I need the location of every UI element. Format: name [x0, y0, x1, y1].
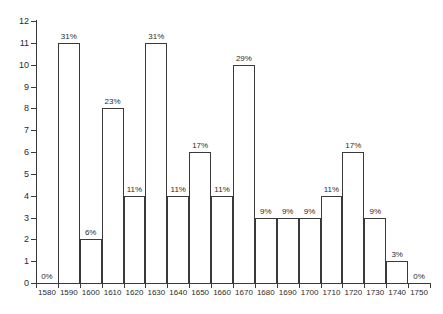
- y-axis-tick-label: 2: [24, 235, 29, 244]
- bar-value-label-1670: 29%: [233, 55, 255, 63]
- x-axis-label-1730: 1730: [364, 289, 386, 297]
- y-axis-tick: [31, 87, 36, 88]
- x-axis-tick: [386, 283, 387, 288]
- x-axis-label-1650: 1650: [189, 289, 211, 297]
- bar-value-label-1630: 31%: [145, 33, 167, 41]
- bar-value-label-1610: 23%: [102, 98, 124, 106]
- bar-1690: [277, 218, 299, 284]
- bar-1730: [364, 218, 386, 284]
- x-axis-tick: [211, 283, 212, 288]
- x-axis-label-1750: 1750: [408, 289, 430, 297]
- bar-value-label-1590: 31%: [58, 33, 80, 41]
- x-axis-tick: [321, 283, 322, 288]
- bar-1740: [386, 261, 408, 283]
- bar-1650: [189, 152, 211, 283]
- y-axis-tick: [31, 108, 36, 109]
- x-axis-tick: [189, 283, 190, 288]
- x-axis-label-1720: 1720: [342, 289, 364, 297]
- x-axis-label-1710: 1710: [321, 289, 343, 297]
- y-axis-tick-label: 10: [19, 60, 29, 69]
- x-axis-tick: [36, 283, 37, 288]
- bar-value-label-1700: 9%: [299, 208, 321, 216]
- x-axis-tick: [124, 283, 125, 288]
- x-axis-tick: [277, 283, 278, 288]
- x-axis-tick: [233, 283, 234, 288]
- x-axis-label-1610: 1610: [102, 289, 124, 297]
- x-axis-tick: [342, 283, 343, 288]
- y-axis-tick: [31, 196, 36, 197]
- bar-value-label-1640: 11%: [167, 186, 189, 194]
- bar-value-label-1660: 11%: [211, 186, 233, 194]
- bar-value-label-1730: 9%: [364, 208, 386, 216]
- x-axis-tick: [102, 283, 103, 288]
- x-axis-label-1690: 1690: [277, 289, 299, 297]
- x-axis-tick: [58, 283, 59, 288]
- bar-1600: [80, 239, 102, 283]
- y-axis-tick: [31, 261, 36, 262]
- x-axis-tick: [167, 283, 168, 288]
- y-axis-tick: [31, 239, 36, 240]
- y-axis-tick-label: 8: [24, 104, 29, 113]
- x-axis-label-1580: 1580: [36, 289, 58, 297]
- y-axis-tick: [31, 65, 36, 66]
- x-axis-label-1740: 1740: [386, 289, 408, 297]
- bar-1720: [342, 152, 364, 283]
- x-axis-tick: [408, 283, 409, 288]
- plot-area: 01234567891011120%31%6%23%11%31%11%17%11…: [36, 21, 430, 283]
- x-axis-tick: [430, 283, 431, 288]
- x-axis-label-1680: 1680: [255, 289, 277, 297]
- bar-value-label-1740: 3%: [386, 251, 408, 259]
- x-axis-label-1620: 1620: [124, 289, 146, 297]
- y-axis-tick: [31, 43, 36, 44]
- bar-value-label-1690: 9%: [277, 208, 299, 216]
- bar-chart: 01234567891011120%31%6%23%11%31%11%17%11…: [0, 0, 443, 314]
- bar-value-label-1580: 0%: [36, 273, 58, 281]
- y-axis-tick: [31, 174, 36, 175]
- bar-1710: [321, 196, 343, 283]
- bar-1620: [124, 196, 146, 283]
- x-axis-label-1600: 1600: [80, 289, 102, 297]
- bar-value-label-1680: 9%: [255, 208, 277, 216]
- x-axis-tick: [80, 283, 81, 288]
- bar-1630: [145, 43, 167, 283]
- y-axis-tick: [31, 152, 36, 153]
- bar-1680: [255, 218, 277, 284]
- x-axis-label-1700: 1700: [299, 289, 321, 297]
- x-axis-label-1590: 1590: [58, 289, 80, 297]
- x-axis-label-1640: 1640: [167, 289, 189, 297]
- y-axis-tick-label: 4: [24, 191, 29, 200]
- x-axis-tick: [255, 283, 256, 288]
- y-axis-tick-label: 11: [20, 38, 29, 47]
- bar-1590: [58, 43, 80, 283]
- y-axis-tick-label: 5: [24, 169, 29, 178]
- bar-value-label-1710: 11%: [321, 186, 343, 194]
- bar-value-label-1620: 11%: [124, 186, 146, 194]
- bar-1640: [167, 196, 189, 283]
- y-axis-tick-label: 6: [24, 148, 29, 157]
- y-axis-tick-label: 3: [24, 213, 29, 222]
- y-axis-tick: [31, 21, 36, 22]
- bar-value-label-1750: 0%: [408, 273, 430, 281]
- x-axis-tick: [364, 283, 365, 288]
- x-axis-label-1670: 1670: [233, 289, 255, 297]
- y-axis-tick-label: 9: [24, 82, 29, 91]
- y-axis-tick: [31, 130, 36, 131]
- x-axis-label-1630: 1630: [145, 289, 167, 297]
- x-axis-tick: [145, 283, 146, 288]
- bar-1660: [211, 196, 233, 283]
- bar-value-label-1650: 17%: [189, 142, 211, 150]
- y-axis-tick: [31, 218, 36, 219]
- bar-1610: [102, 108, 124, 283]
- bar-value-label-1600: 6%: [80, 229, 102, 237]
- y-axis-tick-label: 12: [19, 17, 29, 26]
- x-axis-tick: [299, 283, 300, 288]
- bar-1670: [233, 65, 255, 283]
- y-axis-tick-label: 7: [24, 126, 29, 135]
- y-axis-tick-label: 0: [24, 279, 29, 288]
- bar-value-label-1720: 17%: [342, 142, 364, 150]
- x-axis-label-1660: 1660: [211, 289, 233, 297]
- y-axis-tick-label: 1: [24, 257, 29, 266]
- bar-1700: [299, 218, 321, 284]
